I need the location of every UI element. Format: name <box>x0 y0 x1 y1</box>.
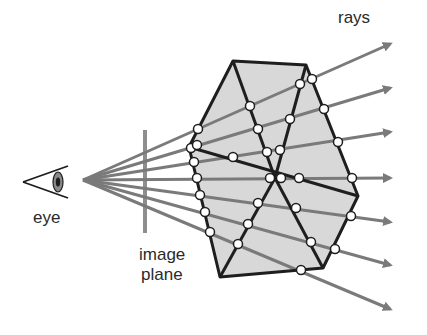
node <box>190 158 199 167</box>
ray-casting-diagram: rays eye image plane <box>0 0 427 335</box>
node <box>276 146 285 155</box>
node <box>254 125 263 134</box>
node <box>193 174 202 183</box>
node <box>246 102 255 111</box>
image-plane-label-line2: plane <box>141 265 183 284</box>
node <box>196 191 205 200</box>
eye-icon <box>23 166 68 198</box>
node <box>296 80 305 89</box>
node <box>277 174 286 183</box>
node <box>201 208 210 217</box>
node <box>206 228 215 237</box>
node <box>254 199 263 208</box>
node <box>320 105 329 114</box>
node <box>229 153 238 162</box>
node <box>295 174 304 183</box>
node <box>234 240 243 249</box>
node <box>286 115 295 124</box>
node <box>307 238 316 247</box>
node <box>297 266 306 275</box>
node <box>331 245 340 254</box>
node <box>244 220 253 229</box>
ray-4 <box>83 178 390 180</box>
node <box>308 75 317 84</box>
node <box>348 174 357 183</box>
node <box>263 148 272 157</box>
node <box>334 138 343 147</box>
eye-label: eye <box>33 208 60 227</box>
node <box>193 141 202 150</box>
node <box>292 204 301 213</box>
node <box>194 125 203 134</box>
node <box>347 212 356 221</box>
rays-label: rays <box>338 8 370 27</box>
image-plane-label-line1: image <box>139 245 185 264</box>
node <box>266 174 275 183</box>
